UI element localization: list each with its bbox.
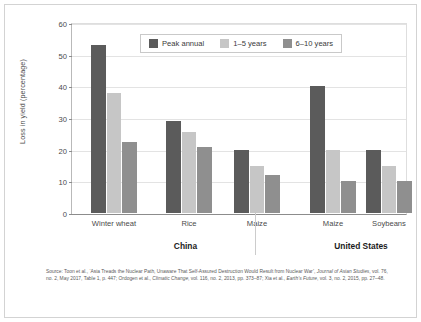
bar	[166, 121, 181, 213]
bar	[197, 147, 212, 214]
legend-swatch-icon	[149, 39, 158, 48]
y-tick-label: 10	[59, 178, 67, 187]
y-tick-label: 20	[59, 146, 67, 155]
legend-item-peak-annual: Peak annual	[149, 39, 204, 48]
y-tick-label: 60	[59, 20, 67, 29]
bar	[382, 166, 397, 214]
bar	[91, 45, 106, 213]
legend-label: 6–10 years	[296, 39, 334, 48]
category-label: Soybeans	[372, 219, 406, 228]
y-tick-label: 40	[59, 83, 67, 92]
bar	[366, 150, 381, 213]
bar	[341, 181, 356, 213]
category-label: Maize	[247, 219, 267, 228]
bar	[326, 150, 341, 213]
bar	[265, 175, 280, 213]
group-label: United States	[334, 241, 388, 251]
bar	[397, 181, 412, 213]
bar	[122, 142, 137, 213]
chart-legend: Peak annual 1–5 years 6–10 years	[140, 34, 342, 53]
plot-area: Loss in yield (percentage) 0102030405060…	[5, 5, 418, 265]
source-journal-2: Climatic Change	[152, 276, 188, 281]
category-label: Winter wheat	[92, 219, 136, 228]
legend-label: Peak annual	[162, 39, 204, 48]
bar	[234, 150, 249, 213]
legend-item-1-5-years: 1–5 years	[220, 39, 266, 48]
bar	[310, 86, 325, 213]
bar	[107, 93, 122, 213]
source-journal-3: Earth’s Future	[286, 276, 317, 281]
bar	[250, 166, 265, 214]
y-tick-label: 50	[59, 51, 67, 60]
legend-swatch-icon	[220, 39, 229, 48]
legend-item-6-10-years: 6–10 years	[283, 39, 334, 48]
legend-swatch-icon	[283, 39, 292, 48]
source-text-4: , vol. 3, no. 2, 2015, pp. 27–48.	[317, 276, 384, 281]
y-tick-label: 0	[63, 210, 67, 219]
legend-label: 1–5 years	[233, 39, 266, 48]
source-note: Source: Toon et al., ‘Asia Treads the Nu…	[46, 268, 394, 283]
group-divider	[255, 213, 256, 255]
y-axis-title: Loss in yield (percentage)	[18, 22, 27, 182]
source-journal-1: Journal of Asian Studies	[317, 269, 370, 274]
y-tick-label: 30	[59, 115, 67, 124]
source-text-1: Source: Toon et al., ‘Asia Treads the Nu…	[46, 269, 317, 274]
category-label: Rice	[181, 219, 196, 228]
group-label: China	[174, 241, 197, 251]
bar	[182, 132, 197, 213]
category-label: Maize	[323, 219, 343, 228]
source-text-3: , vol. 116, no. 2, 2013, pp. 373–87; Xia…	[188, 276, 286, 281]
figure-frame: Loss in yield (percentage) 0102030405060…	[4, 4, 417, 318]
y-tick-mark	[69, 214, 72, 215]
